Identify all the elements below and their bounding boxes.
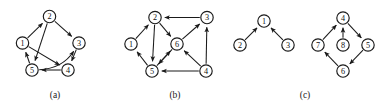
- graph-edge: [348, 23, 361, 38]
- nodes-layer: 1234512365412347856: [16, 10, 374, 77]
- graph-node[interactable]: 3: [201, 11, 213, 23]
- graph-edge: [26, 52, 30, 63]
- graph-edge: [182, 24, 199, 39]
- graph-edge: [153, 25, 155, 62]
- graph-node[interactable]: 3: [282, 39, 294, 51]
- graph-node[interactable]: 2: [234, 39, 246, 51]
- graph-node[interactable]: 4: [337, 12, 349, 24]
- node-label: 1: [20, 39, 24, 48]
- graph-edge: [160, 23, 171, 36]
- node-label: 2: [238, 41, 242, 50]
- graph-node[interactable]: 6: [171, 38, 183, 50]
- node-label: 7: [316, 41, 320, 50]
- graph-edge: [206, 27, 207, 64]
- graph-edge: [157, 51, 170, 66]
- graph-node[interactable]: 5: [146, 65, 158, 77]
- node-label: 4: [204, 67, 208, 76]
- node-label: 1: [129, 40, 133, 49]
- panel-caption: (a): [50, 90, 61, 101]
- graph-edge: [271, 28, 283, 40]
- node-label: 6: [175, 40, 179, 49]
- node-label: 5: [30, 66, 34, 75]
- panel-caption: (b): [169, 90, 180, 101]
- node-label: 2: [47, 12, 51, 21]
- graph-edge: [184, 51, 201, 66]
- graph-node[interactable]: 1: [16, 37, 28, 49]
- captions-layer: (a)(b)(c): [50, 90, 311, 101]
- graph-edge: [350, 50, 363, 64]
- node-label: 5: [150, 67, 154, 76]
- node-label: 1: [262, 17, 266, 26]
- graph-node[interactable]: 4: [62, 64, 74, 76]
- node-label: 4: [66, 66, 70, 75]
- graph-edge: [72, 50, 77, 61]
- graph-node[interactable]: 8: [337, 39, 349, 51]
- panel-caption: (c): [300, 90, 311, 101]
- node-label: 2: [153, 13, 157, 22]
- graph-edge: [136, 25, 149, 39]
- node-label: 3: [77, 39, 81, 48]
- node-label: 5: [366, 41, 370, 50]
- graph-edge: [325, 52, 338, 66]
- graph-node[interactable]: 7: [312, 39, 324, 51]
- graph-node[interactable]: 5: [26, 64, 38, 76]
- figure-canvas: 1234512365412347856 (a)(b)(c): [0, 0, 390, 109]
- graph-edge: [323, 25, 336, 40]
- graph-node[interactable]: 1: [258, 15, 270, 27]
- graph-edge: [137, 52, 148, 66]
- node-label: 3: [205, 13, 209, 22]
- graph-node[interactable]: 6: [337, 65, 349, 77]
- node-label: 6: [341, 67, 345, 76]
- graph-node[interactable]: 5: [362, 39, 374, 51]
- graph-figure: 1234512365412347856 (a)(b)(c): [0, 0, 390, 109]
- graph-edge: [55, 21, 72, 36]
- graph-node[interactable]: 3: [73, 37, 85, 49]
- graph-node[interactable]: 2: [149, 11, 161, 23]
- graph-edge: [28, 23, 43, 38]
- graph-edge: [29, 47, 60, 65]
- node-label: 8: [341, 41, 345, 50]
- graph-node[interactable]: 2: [43, 10, 55, 22]
- graph-edge: [245, 28, 257, 40]
- graph-node[interactable]: 1: [125, 38, 137, 50]
- graph-node[interactable]: 4: [200, 65, 212, 77]
- node-label: 4: [341, 14, 345, 23]
- node-label: 3: [286, 41, 290, 50]
